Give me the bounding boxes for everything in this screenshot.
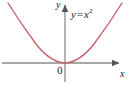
y-axis-label: y [56, 0, 60, 10]
origin-label: 0 [57, 65, 63, 76]
equation-exponent: 2 [89, 7, 93, 15]
plot-canvas [0, 0, 133, 91]
curve-equation-label: y=x2 [71, 9, 93, 20]
parabola-figure: y x 0 y=x2 [0, 0, 133, 91]
equation-operator: = [76, 8, 84, 20]
x-axis-label: x [120, 69, 124, 79]
